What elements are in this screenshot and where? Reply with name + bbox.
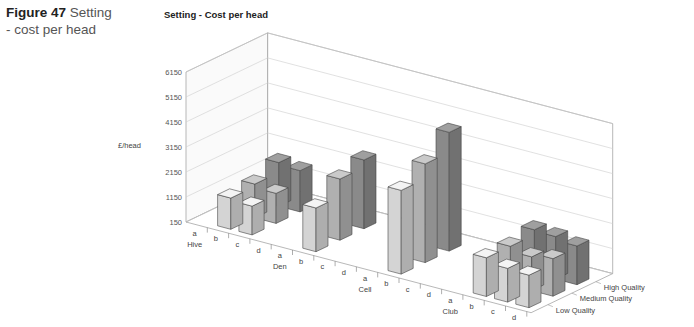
series-label: Medium Quality: [580, 294, 632, 303]
x-sub-label: c: [406, 285, 410, 294]
x-sub-label: d: [512, 313, 516, 322]
y-tick-label: 2150: [165, 168, 182, 177]
x-sub-label: b: [384, 279, 388, 288]
x-sub-label: b: [299, 257, 303, 266]
bar: [388, 181, 413, 274]
bar: [412, 155, 437, 263]
bar: [351, 151, 376, 229]
depth-tick: [572, 293, 577, 295]
bar: [218, 189, 243, 230]
x-sub-label: c: [321, 262, 325, 271]
x-sub-label: b: [214, 234, 218, 243]
x-group-label: Hive: [187, 240, 202, 249]
y-tick-label: 150: [169, 218, 182, 227]
y-tick-label: 3150: [165, 143, 182, 152]
x-sub-label: d: [427, 290, 431, 299]
y-tick-label: 4150: [165, 118, 182, 127]
x-sub-label: d: [256, 246, 260, 255]
depth-tick: [596, 282, 601, 284]
bar: [436, 123, 461, 251]
x-sub-label: a: [278, 251, 283, 260]
y-axis-label: £/head: [118, 141, 141, 150]
x-group-label: Cell: [359, 285, 372, 294]
x-sub-label: b: [469, 302, 473, 311]
series-label: Low Quality: [556, 306, 595, 315]
y-tick-label: 6150: [165, 68, 182, 77]
series-label: High Quality: [604, 283, 645, 292]
bar: [473, 249, 498, 297]
bar: [303, 199, 328, 252]
y-tick-label: 1150: [166, 193, 182, 202]
x-sub-label: d: [342, 268, 346, 277]
depth-tick: [548, 305, 553, 307]
x-sub-label: a: [363, 274, 368, 283]
x-group-label: Club: [443, 307, 458, 316]
x-sub-label: c: [491, 307, 495, 316]
x-sub-label: c: [235, 240, 239, 249]
bar: [327, 170, 352, 241]
x-sub-label: a: [448, 296, 453, 305]
x-group-label: Den: [273, 262, 287, 271]
y-tick-label: 5150: [165, 93, 182, 102]
x-sub-label: a: [193, 229, 198, 238]
bar-chart-3d: 150115021503150415051506150£/headaHivebc…: [0, 0, 694, 327]
